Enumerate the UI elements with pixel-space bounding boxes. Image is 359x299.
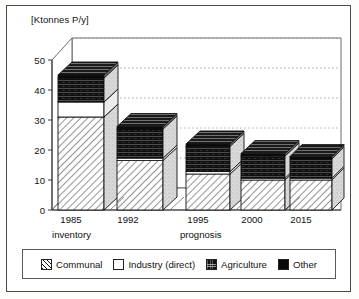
- bar-segment-communal[interactable]: [241, 180, 285, 210]
- agriculture-swatch-icon: [206, 259, 217, 270]
- legend-item-other[interactable]: Other: [278, 259, 317, 270]
- bar-segment-agriculture[interactable]: [290, 159, 332, 178]
- y-axis-ticks: [48, 60, 52, 210]
- group-label-prognosis: prognosis: [180, 229, 222, 240]
- bar-segment-agriculture[interactable]: [241, 156, 285, 178]
- y-tick-label: 30: [34, 115, 45, 126]
- legend-label: Communal: [56, 259, 102, 270]
- x-axis-group-labels: inventory prognosis: [52, 229, 222, 240]
- bar-segment-communal-side: [104, 104, 118, 210]
- y-tick-label: 50: [34, 55, 45, 66]
- y-tick-label: 20: [34, 145, 45, 156]
- bar-segment-agriculture[interactable]: [186, 146, 230, 171]
- legend-item-industry[interactable]: Industry (direct): [113, 259, 195, 270]
- x-tick-label: 1995: [187, 214, 208, 225]
- bar-segment-industry[interactable]: [58, 102, 104, 117]
- legend-item-communal[interactable]: Communal: [41, 259, 102, 270]
- chart-legend: Communal Industry (direct) Agriculture O…: [22, 249, 336, 279]
- legend-label: Agriculture: [221, 259, 267, 270]
- other-swatch-icon: [278, 259, 289, 270]
- legend-label: Other: [293, 259, 317, 270]
- bar-2015[interactable]: [290, 145, 344, 210]
- y-tick-label: 0: [40, 205, 45, 216]
- bar-segment-agriculture[interactable]: [117, 129, 163, 158]
- x-tick-label: 2000: [241, 214, 262, 225]
- x-axis-tick-labels: 1985 1992 1995 2000 2015: [60, 214, 311, 225]
- bar-1992[interactable]: [117, 114, 177, 210]
- bar-segment-communal[interactable]: [117, 161, 163, 211]
- legend-label: Industry (direct): [128, 259, 195, 270]
- y-tick-label: 10: [34, 175, 45, 186]
- industry-swatch-icon: [113, 259, 124, 270]
- bar-1995[interactable]: [186, 131, 244, 210]
- legend-item-agriculture[interactable]: Agriculture: [206, 259, 267, 270]
- figure-canvas: [Ktonnes P/y]: [0, 0, 359, 299]
- x-tick-label: 2015: [290, 214, 311, 225]
- bar-1985[interactable]: [58, 62, 118, 210]
- group-label-inventory: inventory: [52, 229, 91, 240]
- x-tick-label: 1985: [60, 214, 81, 225]
- communal-swatch-icon: [41, 259, 52, 270]
- bar-segment-communal[interactable]: [186, 174, 230, 210]
- bar-segment-agriculture[interactable]: [58, 78, 104, 102]
- x-tick-label: 1992: [117, 214, 138, 225]
- y-tick-label: 40: [34, 85, 45, 96]
- bar-segment-communal[interactable]: [290, 180, 332, 210]
- bar-segment-communal[interactable]: [58, 117, 104, 210]
- y-axis-tick-labels: 50 40 30 20 10 0: [34, 55, 45, 216]
